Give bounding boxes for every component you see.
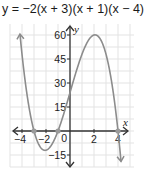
svg-text:2: 2 <box>91 133 97 145</box>
x-axis-label: x <box>122 116 128 128</box>
svg-text:45: 45 <box>54 53 66 65</box>
svg-text:30: 30 <box>54 77 66 89</box>
svg-text:60: 60 <box>54 29 66 41</box>
plot-area: −4−2240−1515304560 x y <box>0 0 146 180</box>
grid-lines <box>10 24 134 167</box>
svg-text:−15: −15 <box>48 149 66 161</box>
svg-text:−2: −2 <box>38 133 50 145</box>
svg-text:−4: −4 <box>14 133 26 145</box>
svg-text:0: 0 <box>61 132 67 144</box>
y-axis-label: y <box>73 23 79 35</box>
